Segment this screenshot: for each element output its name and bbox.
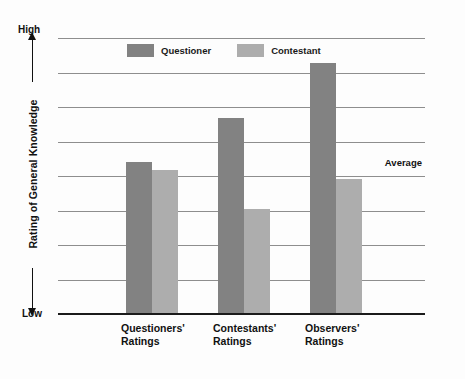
average-annotation-label: Average bbox=[383, 157, 424, 168]
x-axis-label-line: Observers' bbox=[305, 322, 359, 335]
gridline bbox=[58, 73, 425, 74]
chart-legend: Questioner Contestant bbox=[127, 44, 321, 57]
bar-chart-figure: High Low Rating of General Knowledge Que… bbox=[0, 0, 465, 379]
questioner-swatch-icon bbox=[127, 44, 154, 57]
x-axis-label-line: Questioners' bbox=[121, 322, 185, 335]
x-axis-label-line: Ratings bbox=[305, 335, 359, 348]
legend-item-contestant[interactable]: Contestant bbox=[237, 44, 321, 57]
y-axis-label-group: Rating of General Knowledge bbox=[18, 30, 48, 318]
gridline bbox=[58, 107, 425, 108]
x-axis-label-1: Questioners'Ratings bbox=[121, 322, 185, 348]
contestant-swatch-icon bbox=[237, 44, 264, 57]
bar-contestant-group-1[interactable] bbox=[152, 170, 178, 314]
x-axis-line bbox=[58, 313, 425, 315]
x-axis-label-line: Contestants' bbox=[213, 322, 276, 335]
legend-item-questioner[interactable]: Questioner bbox=[127, 44, 211, 57]
arrow-up-icon bbox=[28, 32, 36, 40]
legend-label-questioner: Questioner bbox=[161, 45, 211, 56]
plot-area bbox=[58, 38, 425, 314]
bar-questioner-group-2[interactable] bbox=[218, 118, 244, 314]
gridline bbox=[58, 38, 425, 39]
bar-questioner-group-3[interactable] bbox=[310, 63, 336, 314]
legend-label-contestant: Contestant bbox=[271, 45, 321, 56]
x-axis-label-line: Ratings bbox=[121, 335, 185, 348]
x-axis-label-2: Contestants'Ratings bbox=[213, 322, 276, 348]
x-axis-label-3: Observers'Ratings bbox=[305, 322, 359, 348]
arrow-down-icon bbox=[28, 308, 36, 316]
bar-contestant-group-3[interactable] bbox=[336, 179, 362, 314]
bar-contestant-group-2[interactable] bbox=[244, 209, 270, 314]
x-axis-label-line: Ratings bbox=[213, 335, 276, 348]
y-axis-title: Rating of General Knowledge bbox=[27, 99, 39, 248]
bar-questioner-group-1[interactable] bbox=[126, 162, 152, 314]
